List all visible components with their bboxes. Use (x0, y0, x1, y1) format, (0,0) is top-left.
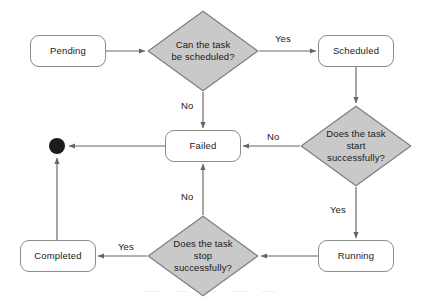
state-node-running-label: Running (338, 251, 374, 262)
edge-label-yes-to-running: Yes (330, 204, 346, 215)
edge-label-yes-to-completed: Yes (118, 241, 134, 252)
state-node-completed[interactable]: Completed (20, 240, 96, 272)
decision-node-can-schedule[interactable]: Can the task be scheduled? (147, 10, 259, 92)
state-node-failed-label: Failed (190, 141, 217, 152)
terminal-node-end (49, 138, 65, 154)
diamond-shape-icon (147, 215, 259, 297)
state-node-pending-label: Pending (50, 46, 86, 57)
edge-label-yes-to-scheduled: Yes (275, 33, 291, 44)
edge-label-no-start-to-failed: No (267, 131, 279, 142)
diamond-shape-icon (300, 105, 412, 187)
decision-node-stop-successfully[interactable]: Does the task stop successfully? (147, 215, 259, 297)
diamond-shape-icon (147, 10, 259, 92)
edge-label-no-to-failed-top: No (181, 100, 193, 111)
state-node-failed[interactable]: Failed (165, 130, 241, 162)
state-node-running[interactable]: Running (318, 240, 394, 272)
state-node-scheduled[interactable]: Scheduled (318, 35, 394, 67)
edge-label-no-stop-to-failed: No (181, 191, 193, 202)
state-node-pending[interactable]: Pending (30, 35, 106, 67)
decision-node-start-successfully[interactable]: Does the task start successfully? (300, 105, 412, 187)
state-node-completed-label: Completed (34, 251, 81, 262)
state-node-scheduled-label: Scheduled (333, 46, 379, 57)
